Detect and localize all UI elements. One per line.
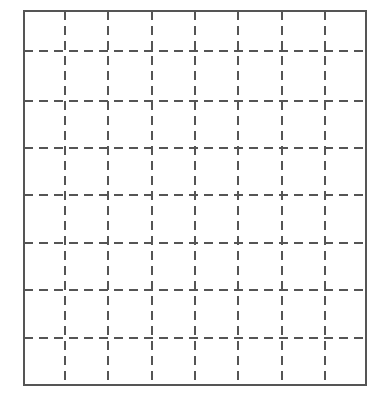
figure-background: [0, 0, 388, 395]
figure-canvas: [0, 0, 388, 395]
grid-diagram: [0, 0, 388, 395]
